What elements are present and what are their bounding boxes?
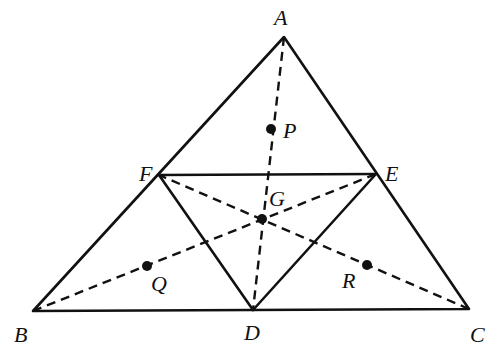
- label-e: E: [384, 161, 399, 186]
- label-r: R: [341, 268, 356, 293]
- label-b: B: [14, 322, 27, 347]
- point-p: [266, 124, 276, 134]
- point-q: [142, 261, 152, 271]
- label-a: A: [272, 5, 288, 30]
- label-p: P: [282, 118, 296, 143]
- label-c: C: [470, 322, 485, 347]
- triangle-diagram: A B C D E F G P Q R: [0, 0, 489, 355]
- label-d: D: [243, 320, 260, 345]
- label-q: Q: [151, 271, 167, 296]
- centroid-point-g: [257, 214, 267, 224]
- label-f: F: [138, 161, 153, 186]
- label-g: G: [269, 186, 285, 211]
- point-r: [362, 260, 372, 270]
